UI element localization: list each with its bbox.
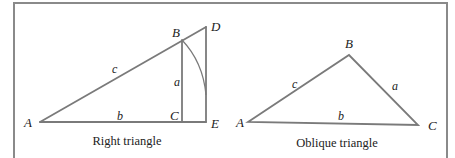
vertex-label-C: C — [170, 108, 179, 123]
side-label-a: a — [392, 79, 398, 93]
caption-right-triangle: Right triangle — [92, 134, 162, 148]
vertex-label-A: A — [235, 115, 244, 130]
figure-frame — [14, 3, 447, 158]
vertex-label-C: C — [428, 118, 437, 133]
arc-B-to-DE — [182, 40, 206, 95]
caption-oblique-triangle: Oblique triangle — [296, 136, 378, 150]
side-label-b: b — [117, 109, 123, 123]
vertex-label-B: B — [172, 25, 180, 40]
oblique-triangle-figure: A B C a b c Oblique triangle — [235, 36, 437, 150]
side-label-b: b — [338, 109, 344, 123]
vertex-label-B: B — [345, 36, 353, 51]
side-label-a: a — [174, 75, 180, 89]
vertex-label-E: E — [210, 116, 219, 131]
right-triangle-figure: A B C D E a b c Right triangle — [23, 19, 221, 148]
side-label-c: c — [292, 77, 298, 91]
triangles-diagram: A B C D E a b c Right triangle A B C a b… — [0, 0, 455, 158]
vertex-label-A: A — [23, 115, 32, 130]
side-label-c: c — [112, 62, 118, 76]
vertex-label-D: D — [210, 19, 221, 34]
